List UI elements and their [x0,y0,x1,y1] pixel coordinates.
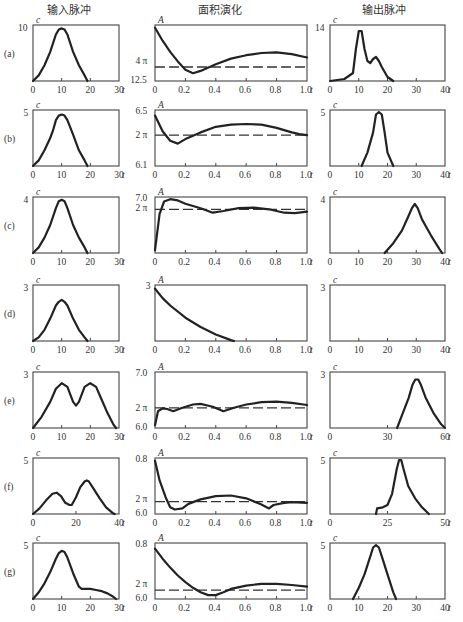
svg-text:4 π: 4 π [135,56,147,66]
svg-text:6.0: 6.0 [135,593,147,603]
svg-text:0: 0 [31,85,36,95]
row-label: (a) [4,49,15,60]
svg-text:0.6: 0.6 [239,257,251,267]
svg-text:c: c [333,533,338,543]
svg-text:c: c [333,362,338,372]
svg-text:1.0: 1.0 [300,432,312,442]
svg-text:30: 30 [411,345,421,355]
svg-text:20: 20 [383,345,393,355]
svg-text:2 π: 2 π [135,203,147,213]
svg-text:A: A [157,100,164,110]
svg-text:0.4: 0.4 [209,170,221,180]
svg-text:3: 3 [321,283,326,293]
curve [155,199,307,250]
svg-text:0.2: 0.2 [178,432,190,442]
svg-text:3: 3 [146,281,151,291]
svg-text:0: 0 [31,518,36,528]
panel-output-1: ct0102030405 [321,100,452,180]
svg-text:0.6: 0.6 [239,432,251,442]
svg-text:5: 5 [321,541,326,551]
svg-text:20: 20 [86,170,96,180]
svg-text:2 π: 2 π [135,403,147,413]
row-label: (d) [4,309,15,320]
svg-text:20: 20 [86,257,96,267]
svg-text:20: 20 [86,603,96,613]
svg-text:10: 10 [57,603,67,613]
svg-text:20: 20 [383,257,393,267]
svg-text:20: 20 [86,345,96,355]
svg-text:0.8: 0.8 [269,518,281,528]
svg-text:0.4: 0.4 [209,257,221,267]
svg-text:c: c [36,15,41,25]
panel-area-5: At00.20.40.60.81.00.82 π6.0 [135,448,313,528]
svg-text:40: 40 [440,345,450,355]
row-label: (e) [4,396,15,407]
svg-text:c: c [36,100,41,110]
svg-text:10: 10 [354,603,364,613]
curve [33,28,88,81]
svg-text:30: 30 [411,603,421,613]
svg-text:2 π: 2 π [135,130,147,140]
svg-text:0.4: 0.4 [209,432,221,442]
svg-text:c: c [36,187,41,197]
svg-text:30: 30 [383,432,393,442]
curve [33,200,88,253]
svg-text:0.2: 0.2 [178,170,190,180]
curve [397,380,445,429]
svg-text:10: 10 [354,257,364,267]
svg-text:20: 20 [383,603,393,613]
svg-text:10: 10 [57,345,67,355]
svg-text:2 π: 2 π [135,494,147,504]
svg-text:20: 20 [71,518,81,528]
svg-text:0: 0 [328,170,333,180]
svg-text:7.0: 7.0 [135,193,147,203]
svg-text:50: 50 [440,518,450,528]
curve [155,549,307,596]
svg-text:0.4: 0.4 [209,603,221,613]
panel-input-5: (f)ct020405 [4,448,125,528]
svg-text:A: A [157,448,164,458]
svg-text:0.4: 0.4 [209,518,221,528]
svg-text:0.8: 0.8 [269,257,281,267]
svg-text:0: 0 [31,603,36,613]
svg-text:6.1: 6.1 [135,160,147,170]
svg-text:12.5: 12.5 [130,75,147,85]
svg-text:A: A [157,362,164,372]
svg-text:A: A [157,187,164,197]
svg-text:30: 30 [411,257,421,267]
curve [330,31,393,81]
svg-text:0.2: 0.2 [178,85,190,95]
svg-text:c: c [333,100,338,110]
svg-text:0.6: 0.6 [239,345,251,355]
svg-text:0.4: 0.4 [209,85,221,95]
svg-text:60: 60 [440,432,450,442]
curve [385,204,443,253]
curve [33,551,116,599]
svg-text:0: 0 [31,432,36,442]
svg-text:30: 30 [411,170,421,180]
svg-text:0.6: 0.6 [239,85,251,95]
panel-area-2: At00.20.40.60.81.07.02 π [135,187,313,267]
svg-text:20: 20 [86,432,96,442]
svg-text:1.0: 1.0 [300,518,312,528]
svg-text:6.0: 6.0 [135,508,147,518]
panel-output-6: ct0102030405 [321,533,452,613]
svg-text:30: 30 [411,85,421,95]
svg-text:5: 5 [24,456,29,466]
svg-text:1.0: 1.0 [300,170,312,180]
svg-text:10: 10 [57,432,67,442]
svg-text:5: 5 [24,541,29,551]
svg-text:0: 0 [328,603,333,613]
row-label: (c) [4,221,15,232]
svg-text:3: 3 [24,283,29,293]
svg-text:0: 0 [328,518,333,528]
svg-text:0: 0 [153,257,158,267]
curve [33,383,116,428]
svg-text:0.6: 0.6 [239,518,251,528]
panel-input-1: (b)ct01020305 [4,100,125,180]
header-output: 输出脉冲 [362,3,406,17]
svg-text:40: 40 [440,85,450,95]
svg-text:A: A [157,533,164,543]
panels: (a)ct010203010At00.20.40.60.81.04 π12.5c… [4,15,451,613]
svg-text:0: 0 [153,170,158,180]
